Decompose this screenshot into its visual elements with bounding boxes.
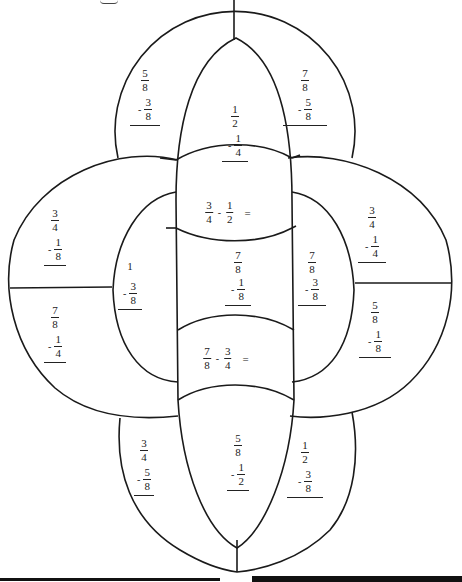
top-left-mark [100,0,118,4]
answer-line [227,490,249,491]
problem-center-lower[interactable]: 78 - 34 = [203,346,249,371]
problem-top-right[interactable]: 78 -58 [283,68,327,126]
problem-bottom-left[interactable]: 34 -58 [134,438,154,496]
problem-left-upper[interactable]: 34 -18 [44,208,66,266]
answer-line [222,161,248,162]
answer-line [118,309,142,310]
problem-bottom-center[interactable]: 58 -12 [227,433,249,491]
problem-bottom-right[interactable]: 12 -38 [287,440,323,498]
problem-top-left[interactable]: 58 -38 [130,68,160,126]
answer-line [298,305,326,306]
answer-line [358,262,386,263]
problem-right-upper[interactable]: 34 -14 [358,205,386,263]
problem-right-lower[interactable]: 58 -18 [359,300,391,358]
answer-line [359,357,391,358]
problem-center-upper[interactable]: 34 - 12 = [205,200,251,225]
answer-line [130,125,160,126]
problem-left-inner[interactable]: 1 -38 [118,255,142,310]
problem-left-lower[interactable]: 78 -14 [44,305,66,363]
answer-line [287,497,323,498]
answer-line [44,362,66,363]
bottom-bar-right [252,576,462,582]
problem-top-center[interactable]: 12 -14 [222,104,248,162]
problem-right-inner[interactable]: 78 -38 [298,250,326,306]
answer-line [225,305,251,306]
answer-line [283,125,327,126]
answer-line [44,265,66,266]
answer-line [134,495,154,496]
bottom-bar-left [0,578,220,581]
problem-center-middle[interactable]: 78 -18 [225,250,251,306]
